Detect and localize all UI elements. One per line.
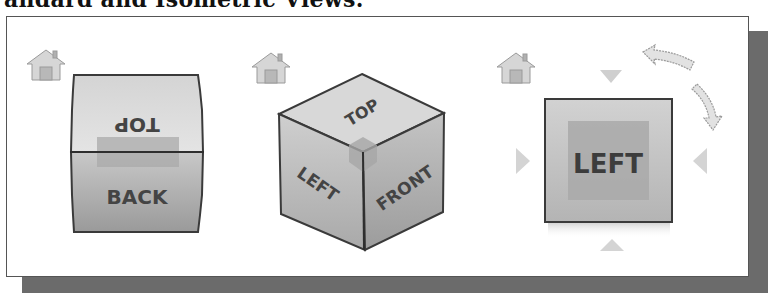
rotate-ccw-icon[interactable] [643, 45, 694, 70]
home-icon[interactable] [27, 50, 65, 80]
face-label-back: BACK [107, 185, 169, 209]
top-back-view-panel: TOP BACK TOP LEFT FRONT LEFT [0, 0, 771, 295]
home-icon[interactable] [252, 53, 290, 83]
arrow-up-icon[interactable] [600, 239, 624, 251]
arrow-right-icon[interactable] [516, 148, 530, 174]
home-icon[interactable] [497, 53, 535, 83]
rolled-cube[interactable]: TOP BACK [70, 75, 204, 232]
rotate-cw-icon[interactable] [692, 84, 722, 130]
arrow-left-icon[interactable] [693, 148, 707, 174]
arrow-down-icon[interactable] [600, 70, 622, 83]
face-label-left: LEFT [573, 149, 643, 179]
isometric-cube[interactable]: TOP LEFT FRONT [279, 74, 444, 250]
face-label-top: TOP [114, 113, 159, 137]
left-face-square[interactable]: LEFT [545, 99, 672, 222]
face-shadow [548, 222, 670, 238]
